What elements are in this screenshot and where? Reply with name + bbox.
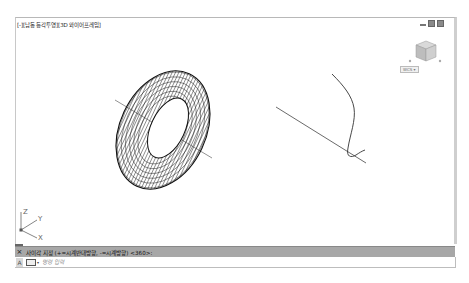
viewcube-icon[interactable] <box>409 41 441 62</box>
command-input-bar[interactable]: A ▾ 명령 입력 <box>15 257 456 268</box>
chevron-down-icon[interactable]: ▾ <box>37 260 39 265</box>
customize-icon[interactable]: A <box>16 258 23 267</box>
axis-line-2[interactable] <box>276 107 366 163</box>
command-input[interactable]: 명령 입력 <box>42 258 64 266</box>
command-history-text: 사이각 지정 (+=시계반대방향, -=시계방향) <360>: <box>26 249 152 257</box>
ucs-y-label: Y <box>37 215 43 223</box>
wcs-label: WCS <box>403 67 412 72</box>
close-icon[interactable]: × <box>16 248 23 257</box>
drawing-canvas[interactable]: Z Y X <box>0 0 469 283</box>
torus-wireframe[interactable] <box>94 48 232 212</box>
ucs-x-label: X <box>38 234 43 242</box>
ucs-z-label: Z <box>23 208 28 216</box>
revolve-path-curve[interactable] <box>332 74 365 157</box>
wcs-menu[interactable]: WCS ▾ <box>400 66 419 73</box>
command-prompt-icon[interactable] <box>26 259 36 266</box>
